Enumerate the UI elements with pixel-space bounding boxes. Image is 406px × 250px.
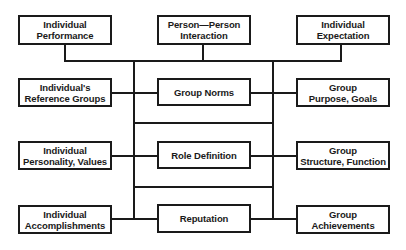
connector-right-spine [272, 60, 274, 220]
connector-left-spine [133, 60, 135, 220]
node-label-line: Interaction [168, 30, 241, 41]
node-personality-values: Individual Personality, Values [18, 141, 112, 170]
node-label-line: Achievements [311, 220, 374, 231]
node-label-line: Expectation [317, 30, 370, 41]
connector-top-bus [64, 60, 342, 62]
node-reputation: Reputation [157, 204, 251, 233]
node-group-norms: Group Norms [157, 78, 251, 106]
connector-mid-bus [133, 122, 274, 124]
diagram-canvas: Individual Performance Person—Person Int… [0, 0, 406, 250]
node-individual-performance: Individual Performance [18, 15, 112, 45]
node-label-line: Group [311, 209, 374, 220]
node-label-line: Individual [25, 209, 105, 220]
node-label-line: Purpose, Goals [309, 93, 377, 104]
node-label-line: Group Norms [174, 87, 234, 98]
connector-lower-bus [133, 186, 274, 188]
node-label-line: Performance [37, 30, 94, 41]
node-group-purpose: Group Purpose, Goals [296, 78, 390, 107]
node-label-line: Individual's [25, 82, 106, 93]
node-group-structure: Group Structure, Function [296, 141, 390, 170]
node-label-line: Individual [317, 19, 370, 30]
node-accomplishments: Individual Accomplishments [18, 205, 112, 234]
node-label-line: Reputation [180, 213, 229, 224]
node-label-line: Role Definition [171, 150, 237, 161]
node-reference-groups: Individual's Reference Groups [18, 78, 112, 107]
node-label-line: Individual [37, 19, 94, 30]
node-label-line: Accomplishments [25, 220, 105, 231]
node-individual-expectation: Individual Expectation [296, 15, 390, 45]
node-role-definition: Role Definition [157, 141, 251, 169]
node-label-line: Person—Person [168, 19, 241, 30]
node-label-line: Individual [23, 145, 107, 156]
node-group-achievements: Group Achievements [296, 205, 390, 234]
node-label-line: Group [300, 145, 386, 156]
node-label-line: Structure, Function [300, 156, 386, 167]
node-label-line: Reference Groups [25, 93, 106, 104]
node-label-line: Personality, Values [23, 156, 107, 167]
node-label-line: Group [309, 82, 377, 93]
node-person-person-interaction: Person—Person Interaction [157, 15, 251, 45]
